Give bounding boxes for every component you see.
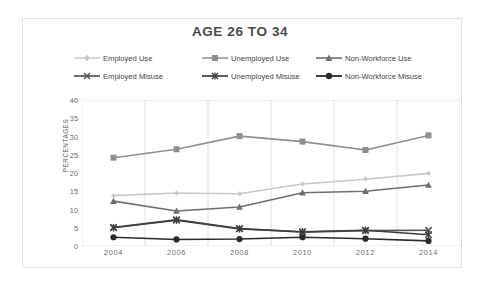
data-point-circle [173,236,179,242]
data-point-square [363,147,369,153]
legend-label: Unemployed Use [231,54,289,63]
legend-item-non-workforce-misuse[interactable]: Non-Workforce Misuse [316,71,430,81]
x-tick-label: 2006 [167,248,186,257]
y-tick-label: 40 [56,96,78,105]
legend-key-diamond-icon [74,53,100,63]
legend-key-asterisk-icon [202,71,228,81]
y-axis-ticks: 4035302520151050 [56,100,78,245]
legend-key-triangle-icon [316,53,342,63]
chart-legend: Employed Use Unemployed Use [60,49,430,85]
legend-key-x-icon [74,71,100,81]
legend-label: Employed Misuse [103,72,163,81]
y-tick-label: 25 [56,150,78,159]
y-tick-label: 30 [56,132,78,141]
chart-canvas [82,100,460,246]
y-tick-label: 20 [56,169,78,178]
legend-item-unemployed-misuse[interactable]: Unemployed Misuse [202,71,316,81]
y-tick-label: 15 [56,187,78,196]
y-tick-label: 0 [56,242,78,251]
y-tick-label: 35 [56,114,78,123]
x-tick-label: 2008 [230,248,249,257]
data-point-circle [362,236,368,242]
chart-title: AGE 26 TO 34 [0,24,480,39]
data-point-circle [299,234,305,240]
x-axis-ticks: 200420062008201020122014 [95,248,457,262]
data-point-square [300,139,306,145]
legend-row-use: Employed Use Unemployed Use [60,49,430,67]
data-point-square [426,132,432,138]
x-tick-label: 2010 [293,248,312,257]
legend-item-employed-misuse[interactable]: Employed Misuse [60,71,202,81]
x-tick-label: 2012 [356,248,375,257]
legend-label: Employed Use [103,54,152,63]
data-point-square [237,133,243,139]
legend-item-non-workforce-use[interactable]: Non-Workforce Use [316,53,430,63]
legend-label: Non-Workforce Misuse [345,72,422,81]
plot-area: PERCENTAGES 4035302520151050 20042006200… [40,100,460,268]
y-tick-label: 10 [56,205,78,214]
data-point-square [174,146,180,152]
data-point-circle [110,234,116,240]
x-tick-label: 2004 [104,248,123,257]
legend-label: Unemployed Misuse [231,72,300,81]
legend-item-unemployed-use[interactable]: Unemployed Use [202,53,316,63]
data-point-square [111,155,117,161]
y-tick-label: 5 [56,223,78,232]
legend-row-misuse: Employed Misuse Unemployed Misuse [60,67,430,85]
legend-item-employed-use[interactable]: Employed Use [60,53,202,63]
data-point-circle [425,238,431,244]
legend-key-square-icon [202,53,228,63]
legend-key-circle-icon [316,71,342,81]
chart-screenshot: AGE 26 TO 34 Employed Use [0,0,480,285]
data-point-circle [236,236,242,242]
x-tick-label: 2014 [419,248,438,257]
legend-label: Non-Workforce Use [345,54,412,63]
